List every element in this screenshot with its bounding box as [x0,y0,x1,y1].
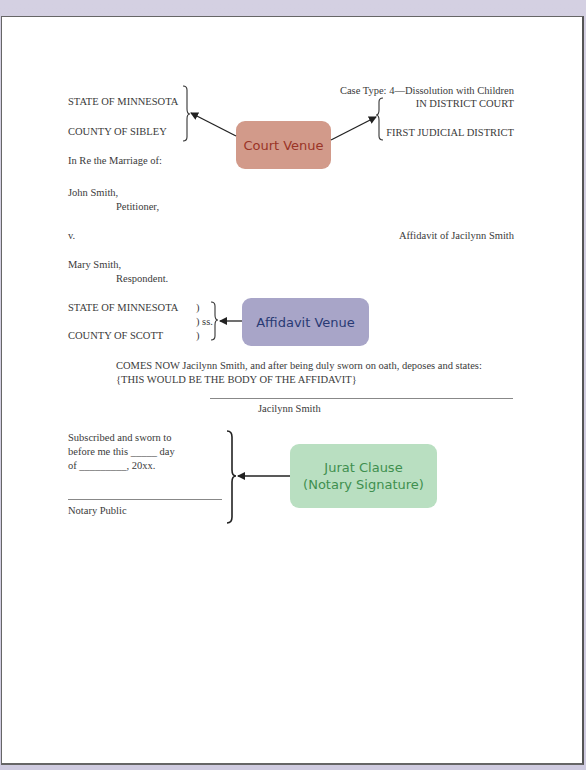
affidavit-venue-bracket-icon [211,302,218,340]
arrow-right-icon [331,117,376,140]
left-caption-bracket-icon [183,86,190,141]
annotation-overlay [0,0,586,770]
jurat-bracket-icon [227,431,236,523]
right-caption-bracket-icon [376,98,383,140]
arrow-left-icon [191,113,236,136]
